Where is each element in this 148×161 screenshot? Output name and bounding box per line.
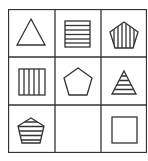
cell-1-2-striped-triangle-icon (108, 71, 140, 94)
grid-svg (8, 9, 147, 153)
cell-1-0-striped-square-icon (19, 69, 45, 95)
cell-0-0-triangle-icon (17, 19, 45, 45)
cell-2-0-striped-pentagon-icon (14, 118, 48, 143)
shape-grid (8, 9, 147, 153)
cell-2-2-square-icon (112, 117, 137, 143)
cell-0-2-striped-pentagon-icon (110, 19, 138, 49)
cell-0-1-striped-square-icon (65, 21, 90, 47)
cell-1-1-pentagon-icon (64, 68, 92, 95)
